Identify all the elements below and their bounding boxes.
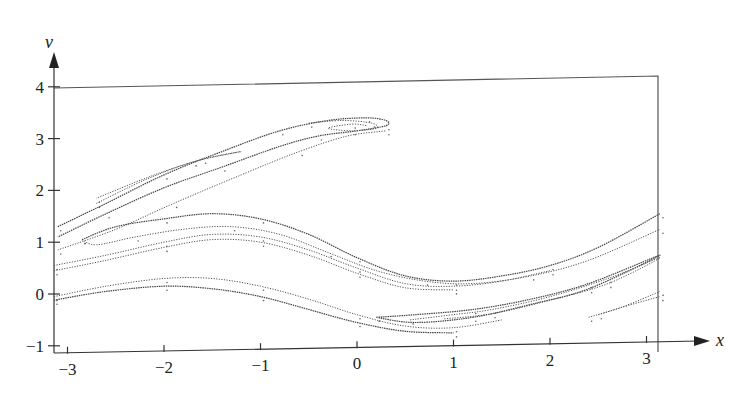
curve-upper-lobe-lower	[58, 131, 386, 250]
y-axis-arrow-icon	[49, 52, 59, 68]
stray-point	[234, 230, 236, 232]
stray-point	[456, 289, 458, 291]
stray-point	[533, 279, 535, 281]
stray-point	[359, 261, 361, 263]
y-tick-label: 2	[36, 181, 45, 200]
stray-point	[166, 289, 168, 291]
x-axis	[54, 341, 700, 353]
stray-point	[359, 318, 361, 320]
x-tick-label: −2	[155, 358, 173, 377]
stray-point	[591, 321, 593, 323]
stray-point	[354, 127, 356, 129]
stray-point	[166, 282, 168, 284]
stray-point	[301, 155, 303, 157]
curve-upper-lobe-tip	[309, 121, 378, 131]
curve-mid-band-lowest	[54, 239, 454, 290]
stray-point	[359, 277, 361, 279]
stray-point	[84, 243, 86, 245]
stray-point	[60, 230, 62, 232]
curve-low-band-upper	[54, 278, 502, 329]
stray-point	[601, 318, 603, 320]
x-ticks: −3−2−10123	[58, 336, 650, 379]
x-axis-arrow-icon	[694, 336, 710, 346]
stray-point	[662, 300, 664, 302]
stray-point	[662, 295, 664, 297]
stray-point	[456, 331, 458, 333]
x-tick-label: −1	[251, 356, 269, 375]
stray-point	[176, 207, 178, 209]
curve-mid-band-hook	[82, 226, 660, 283]
stray-point	[374, 126, 376, 128]
stray-point	[475, 321, 477, 323]
stray-point	[552, 274, 554, 276]
x-tick-label: −3	[58, 360, 76, 379]
stray-point	[388, 129, 390, 131]
stray-point	[359, 326, 361, 328]
stray-point	[321, 139, 323, 141]
stray-point	[60, 253, 62, 255]
stray-point	[263, 245, 265, 247]
stray-point	[195, 165, 197, 167]
x-axis-label: x	[715, 330, 724, 350]
stray-point	[166, 178, 168, 180]
stray-point	[108, 217, 110, 219]
y-ticks: −101234	[26, 78, 60, 356]
stray-point	[388, 134, 390, 136]
stray-point	[427, 284, 429, 286]
phase-space-plot: v x −3−2−10123 −101234	[0, 0, 751, 399]
curve-right-hook-inner	[410, 258, 660, 320]
stray-point	[412, 323, 414, 325]
stray-point	[379, 321, 381, 323]
x-tick-label: 1	[449, 353, 458, 372]
stray-point	[282, 134, 284, 136]
curve-right-tendril-2	[598, 297, 660, 315]
stray-point	[359, 271, 361, 273]
x-tick-label: 0	[353, 354, 362, 373]
curve-low-band-lower	[54, 286, 454, 333]
stray-point	[263, 222, 265, 224]
stray-point	[263, 240, 265, 242]
x-tick-label: 3	[642, 349, 651, 368]
y-axis-label: v	[45, 32, 53, 52]
stray-point	[56, 303, 58, 305]
stray-point	[456, 336, 458, 338]
stray-point	[494, 313, 496, 315]
stray-point	[99, 207, 101, 209]
y-tick-label: 1	[36, 233, 45, 252]
stray-point	[311, 126, 313, 128]
stray-point	[610, 287, 612, 289]
stray-point	[330, 256, 332, 258]
curve-upper-lobe-outer	[58, 118, 389, 237]
stray-point	[166, 222, 168, 224]
y-tick-label: 0	[36, 285, 45, 304]
y-tick-label: 4	[36, 78, 45, 97]
stray-point	[166, 251, 168, 253]
stray-point	[224, 170, 226, 172]
stray-point	[591, 287, 593, 289]
curve-right-tendril	[589, 291, 660, 317]
stray-point	[610, 282, 612, 284]
plot-frame	[54, 76, 658, 352]
stray-point	[263, 300, 265, 302]
stray-point	[137, 240, 139, 242]
stray-point	[456, 293, 458, 295]
y-tick-label: −1	[26, 337, 44, 356]
stray-point	[475, 313, 477, 315]
curve-mid-band-outer	[82, 214, 660, 281]
stray-point	[662, 217, 664, 219]
stray-point	[552, 269, 554, 271]
curve-upper-lobe-inner	[96, 152, 241, 204]
stray-point	[205, 163, 207, 165]
stray-point	[263, 289, 265, 291]
y-tick-label: 3	[36, 130, 45, 149]
stray-point	[591, 292, 593, 294]
stray-point	[494, 317, 496, 319]
x-tick-label: 2	[546, 351, 555, 370]
stray-point	[56, 274, 58, 276]
stray-point	[99, 201, 101, 203]
stray-point	[662, 233, 664, 235]
data-curves	[54, 118, 664, 338]
